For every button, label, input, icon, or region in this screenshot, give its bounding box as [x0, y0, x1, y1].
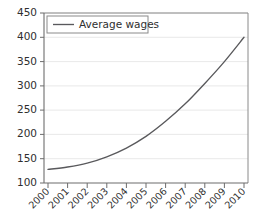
- y-tick-label-100: 100: [17, 176, 37, 188]
- chart-svg: 450 400 350 300 250 200 150 100: [0, 0, 262, 224]
- y-tick-label-200: 200: [17, 127, 37, 139]
- y-tick-label-300: 300: [17, 79, 37, 91]
- y-tick-label-150: 150: [17, 152, 37, 164]
- legend: Average wages: [47, 16, 159, 33]
- y-tick-label-350: 350: [17, 55, 37, 67]
- legend-label-average-wages: Average wages: [79, 18, 159, 30]
- y-tick-label-450: 450: [17, 6, 37, 18]
- chart-screenshot: 450 400 350 300 250 200 150 100: [0, 0, 262, 224]
- y-tick-label-400: 400: [17, 30, 37, 42]
- line-chart-figure: 450 400 350 300 250 200 150 100: [0, 0, 262, 224]
- y-tick-label-250: 250: [17, 103, 37, 115]
